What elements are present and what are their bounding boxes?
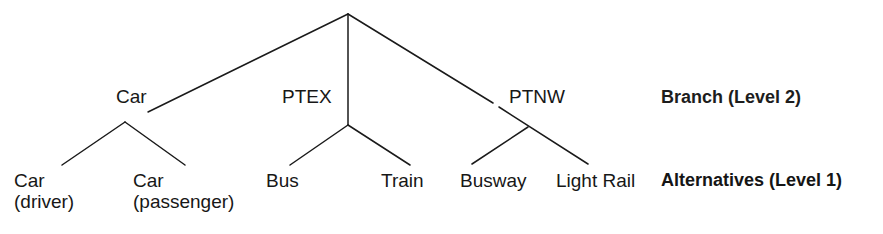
branch-label-ptex: PTEX	[282, 86, 332, 107]
leaf-line-1: Busway	[460, 170, 527, 191]
leaf-line-2: (driver)	[14, 191, 74, 212]
link-car-to-car-passenger	[125, 122, 185, 165]
leaf-line-1: Car	[14, 170, 45, 191]
tree-diagram: Car PTEX PTNW Car (driver) Car (passenge…	[0, 0, 883, 234]
leaf-label-train: Train	[381, 170, 424, 191]
caption-branch-level-2: Branch (Level 2)	[661, 87, 801, 107]
link-ptex-to-train	[348, 125, 410, 165]
link-ptex-to-bus	[290, 125, 348, 165]
leaf-line-1: Train	[381, 170, 424, 191]
caption-alternatives-level-1: Alternatives (Level 1)	[661, 170, 842, 190]
link-ptnw-to-light-rail	[499, 107, 588, 164]
leaf-label-light-rail: Light Rail	[556, 170, 635, 191]
branch-label-ptnw: PTNW	[509, 86, 565, 107]
branch-label-car: Car	[116, 86, 147, 107]
leaf-line-2: (passenger)	[133, 191, 234, 212]
leaf-label-car-driver: Car (driver)	[14, 170, 74, 212]
leaf-label-busway: Busway	[460, 170, 527, 191]
link-ptnw-to-busway	[472, 127, 528, 164]
leaf-label-car-passenger: Car (passenger)	[133, 170, 234, 212]
leaf-label-bus: Bus	[266, 170, 299, 191]
leaf-line-1: Car	[133, 170, 164, 191]
leaf-line-1: Light Rail	[556, 170, 635, 191]
link-car-to-car-driver	[62, 122, 125, 165]
link-root-to-ptnw	[348, 14, 493, 103]
leaf-line-1: Bus	[266, 170, 299, 191]
